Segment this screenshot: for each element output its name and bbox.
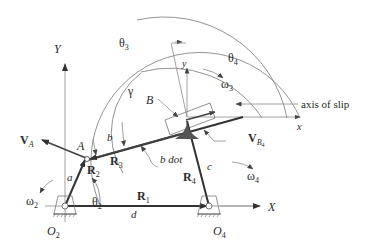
link-c-label: c	[207, 160, 212, 172]
linkage-diagram: Y X axis of slip y	[0, 0, 371, 252]
r4-label: R4	[183, 170, 196, 186]
pivot-o4-label: O4	[213, 224, 226, 240]
vb4-leader	[204, 130, 214, 141]
local-axes: y	[181, 58, 300, 117]
pin-a	[85, 157, 90, 162]
theta4-label: θ4	[228, 51, 238, 67]
omega3-label: ω3	[221, 77, 233, 93]
pivot-o2-label: O2	[47, 224, 60, 240]
gamma-label: γ	[127, 84, 134, 98]
theta3-label: θ3	[119, 36, 129, 52]
link-2	[65, 160, 85, 206]
r2-label: R2	[87, 163, 100, 179]
theta4-arc	[141, 68, 262, 118]
b-dot-label: b dot	[160, 153, 183, 165]
ground-y-label: Y	[54, 42, 62, 56]
vb4-label: VB4	[248, 131, 265, 148]
b-arrow	[122, 122, 124, 146]
point-a-label: A	[76, 139, 85, 153]
omega2-label: ω2	[26, 194, 38, 210]
link-d-label: d	[131, 208, 137, 220]
point-b-label: B	[146, 93, 154, 107]
local-y-label: y	[181, 58, 187, 69]
theta3-arrow	[93, 139, 96, 155]
axis-of-slip-label: axis of slip	[301, 98, 350, 110]
b-leader	[158, 99, 178, 117]
va-label: VA	[20, 133, 34, 149]
r1-label: R1	[137, 189, 150, 205]
b-dot-leader	[141, 146, 149, 157]
local-x-label: x	[296, 121, 302, 132]
omega4-arrow	[232, 162, 253, 169]
ground-y-axis: Y	[54, 42, 65, 222]
omega4-label: ω4	[247, 169, 259, 185]
ground-x-label: X	[267, 200, 276, 214]
omega2-arrow	[40, 180, 53, 193]
link-b-label: b	[107, 131, 113, 143]
link-a-label: a	[67, 171, 73, 183]
vb4-vector	[186, 112, 215, 120]
r3-label: R3	[110, 154, 123, 170]
